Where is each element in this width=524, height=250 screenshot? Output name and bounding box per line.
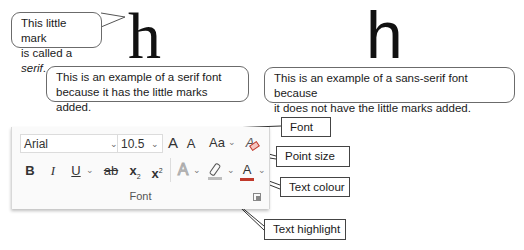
font-color-button[interactable]: A: [240, 161, 254, 181]
grow-font-button[interactable]: A: [166, 134, 180, 152]
underline-button[interactable]: U: [70, 162, 82, 180]
chevron-down-icon[interactable]: ⌄: [193, 165, 201, 175]
divider: [170, 158, 171, 182]
text-colour-callout: Text colour: [280, 177, 350, 197]
highlight-color-bar: [208, 177, 222, 180]
sans-serif-glyph: h: [366, 2, 403, 68]
font-group-label: Font: [12, 190, 269, 202]
text-effects-button[interactable]: A: [175, 161, 191, 179]
text-highlight-button[interactable]: [208, 163, 222, 181]
shrink-font-button[interactable]: A: [185, 135, 197, 153]
sans-serif-caption: This is an example of a sans-serif font …: [264, 67, 515, 103]
bold-button[interactable]: B: [24, 162, 36, 180]
serif-caption: This is an example of a serif font becau…: [46, 66, 249, 102]
serif-callout: This little mark is called a serif.: [11, 12, 102, 48]
subscript-button[interactable]: x2: [128, 162, 142, 186]
highlighter-pen-icon: [209, 162, 221, 176]
font-ribbon-group: Arial ⌄ 10.5 ⌄ A A Aa ⌄ A B I U ⌄ ab x2 …: [11, 127, 269, 209]
chevron-down-icon: ⌄: [151, 135, 159, 154]
font-color-bar: [240, 178, 254, 181]
chevron-down-icon: ⌄: [228, 137, 236, 147]
clear-formatting-button[interactable]: A: [242, 134, 258, 152]
italic-button[interactable]: I: [47, 162, 59, 180]
serif-glyph: h: [128, 3, 161, 69]
point-size-callout: Point size: [276, 146, 350, 167]
chevron-down-icon[interactable]: ⌄: [258, 165, 266, 175]
font-name-dropdown[interactable]: Arial ⌄: [20, 134, 122, 153]
chevron-down-icon[interactable]: ⌄: [86, 165, 94, 175]
chevron-down-icon[interactable]: ⌄: [227, 165, 235, 175]
dialog-launcher-icon[interactable]: [253, 193, 261, 201]
superscript-button[interactable]: x2: [150, 162, 164, 183]
serif-callout-line1: This little mark: [21, 16, 92, 46]
font-callout: Font: [281, 117, 331, 137]
font-size-dropdown[interactable]: 10.5 ⌄: [117, 134, 163, 153]
change-case-button[interactable]: Aa: [206, 134, 228, 152]
strikethrough-button[interactable]: ab: [102, 162, 120, 180]
ribbon-separator: [269, 127, 270, 209]
text-highlight-callout: Text highlight: [264, 219, 346, 240]
